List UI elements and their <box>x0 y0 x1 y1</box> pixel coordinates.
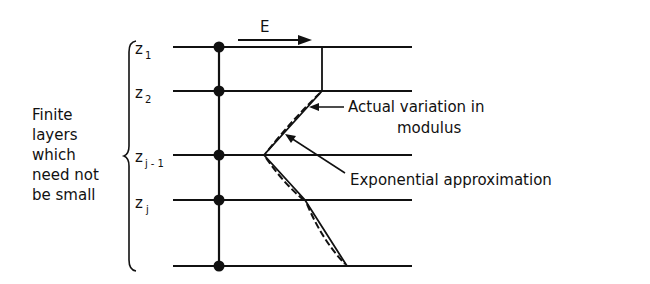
layer-label-zj-1-base: z <box>135 148 143 166</box>
actual-variation-curve <box>264 47 347 266</box>
leaders <box>285 103 345 173</box>
exponential-leader-arrowhead-icon <box>285 134 296 143</box>
modulus-arrow: E <box>238 18 312 45</box>
arrow-head-icon <box>298 35 312 45</box>
arrow-label: E <box>260 18 269 36</box>
layer-label-z2-sub: 2 <box>145 94 151 105</box>
node-5 <box>214 261 225 272</box>
actual-variation-label-line1: Actual variation in <box>348 98 485 116</box>
layer-label-zj: zj <box>135 194 149 215</box>
layer-label-z1-sub: 1 <box>145 50 151 61</box>
node-2 <box>214 86 225 97</box>
layer-label-zj-1: zj - 1 <box>135 148 164 169</box>
actual-variation-label-line2: modulus <box>397 119 461 137</box>
node-4 <box>214 195 225 206</box>
side-label-line-4: need not <box>32 166 99 184</box>
layer-label-zj-1-sub: j - 1 <box>144 158 164 169</box>
layer-label-z2: z2 <box>135 84 151 105</box>
side-label-line-5: be small <box>32 186 95 204</box>
side-label-line-2: layers <box>32 126 78 144</box>
node-3 <box>214 150 225 161</box>
layer-label-z1-base: z <box>135 40 143 58</box>
layer-label-z1: z1 <box>135 40 151 61</box>
side-label-line-1: Finite <box>32 106 73 124</box>
node-1 <box>214 42 225 53</box>
layer-label-zj-base: z <box>135 194 143 212</box>
layer-label-z2-base: z <box>135 84 143 102</box>
layer-boundaries <box>173 47 412 266</box>
layered-modulus-diagram: E Actual variation in modulus Exponentia… <box>0 0 650 284</box>
side-label: Finite layers which need not be small <box>32 106 99 204</box>
exponential-approximation-label: Exponential approximation <box>350 171 552 189</box>
layer-label-zj-sub: j <box>145 204 149 215</box>
side-label-line-3: which <box>32 146 76 164</box>
exponential-approximation-curve <box>266 93 345 264</box>
